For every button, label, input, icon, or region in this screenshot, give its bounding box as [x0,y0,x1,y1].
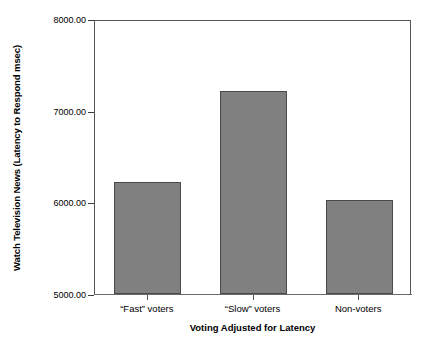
y-axis-tick-mark [88,295,94,296]
x-axis-title: Voting Adjusted for Latency [94,322,411,334]
x-axis-tick-label: “Slow” voters [193,303,313,315]
y-axis-tick-label: 8000.00 [30,15,86,25]
x-axis-tick-mark [358,295,359,300]
x-axis-tick-label: “Fast” voters [87,303,207,315]
bar [220,91,287,294]
x-axis-tick-label: Non-voters [298,303,418,315]
y-axis-tick-labels: 5000.006000.007000.008000.00 [30,0,86,348]
y-axis-tick-label: 5000.00 [30,290,86,300]
y-axis-tick-label: 7000.00 [30,107,86,117]
x-axis-tick-mark [253,295,254,300]
y-axis-title: Watch Television News (Latency to Respon… [8,8,26,308]
bar [114,182,181,294]
bar-chart: Watch Television News (Latency to Respon… [0,0,443,348]
bar [326,200,393,294]
plot-area [94,20,411,295]
x-axis-tick-mark [147,295,148,300]
y-axis-tick-label: 6000.00 [30,198,86,208]
